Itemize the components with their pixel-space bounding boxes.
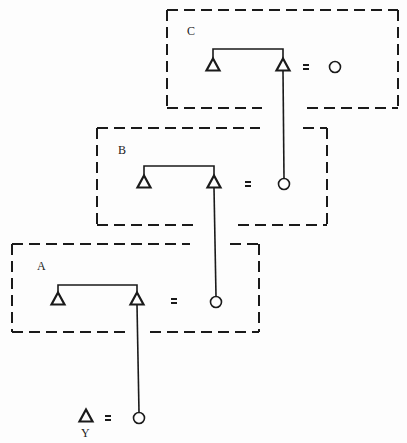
connector-line bbox=[214, 188, 216, 297]
box-a-circle-icon bbox=[211, 297, 222, 308]
connector-line bbox=[283, 71, 284, 179]
box-b: B bbox=[118, 143, 126, 157]
box-a-label: A bbox=[37, 259, 46, 273]
box-b-right-triangle-icon bbox=[208, 176, 221, 188]
box-b-bracket bbox=[144, 166, 214, 176]
diagram-canvas: C B A Y bbox=[0, 0, 407, 443]
box-b-circle-icon bbox=[279, 179, 290, 190]
recursion-diagram: C B A Y bbox=[0, 0, 407, 443]
output-group: Y bbox=[81, 426, 90, 440]
box-b-left-triangle-icon bbox=[138, 176, 151, 188]
box-c-circle-icon bbox=[330, 62, 341, 73]
box-a-right-triangle-icon bbox=[131, 293, 144, 305]
output-circle-icon bbox=[134, 413, 145, 424]
connector-line bbox=[137, 305, 139, 413]
box-a-left-triangle-icon bbox=[52, 293, 65, 305]
box-c-right-triangle-icon bbox=[277, 59, 290, 71]
box-a-bracket bbox=[58, 285, 137, 293]
diagram-shapes bbox=[12, 10, 398, 424]
output-triangle-icon bbox=[80, 410, 93, 422]
box-c-left-triangle-icon bbox=[207, 59, 220, 71]
box-c-label: C bbox=[187, 24, 195, 38]
output-label-y: Y bbox=[81, 426, 90, 440]
box-c-bracket bbox=[213, 49, 283, 59]
box-b-label: B bbox=[118, 143, 126, 157]
box-a: A bbox=[37, 259, 46, 273]
box-c: C bbox=[187, 24, 195, 38]
